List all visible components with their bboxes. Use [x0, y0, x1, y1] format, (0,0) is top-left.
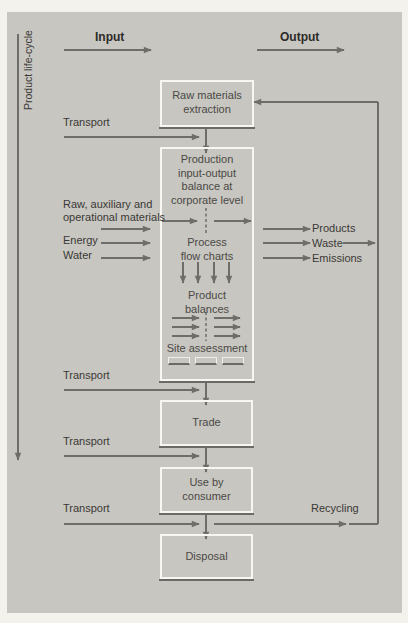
output-header: Output	[280, 31, 319, 44]
use-by-consumer-label: Use by consumer	[160, 476, 253, 503]
trade-label: Trade	[160, 416, 253, 430]
trade-box-shadow	[159, 446, 254, 448]
disposal-label: Disposal	[160, 550, 253, 564]
recycling-label: Recycling	[311, 502, 359, 515]
raw-materials-box-shadow	[159, 127, 255, 129]
disposal-box-shadow	[159, 579, 254, 581]
transport-label-3: Transport	[63, 435, 110, 448]
transport-label-1: Transport	[63, 116, 110, 129]
site-assessment-cell	[222, 357, 244, 365]
emissions-label: Emissions	[312, 252, 362, 265]
use-box-shadow	[159, 513, 254, 515]
raw-materials-label: Raw materials extraction	[160, 89, 254, 116]
waste-label: Waste	[312, 237, 343, 250]
transport-label-2: Transport	[63, 369, 110, 382]
energy-label: Energy	[63, 234, 98, 247]
process-flow-charts-label: Process flow charts	[160, 236, 254, 263]
site-assessment-cell	[195, 357, 217, 365]
production-title: Production input-output balance at corpo…	[160, 153, 254, 207]
products-label: Products	[312, 222, 355, 235]
product-life-cycle-label: Product life-cycle	[22, 30, 34, 110]
transport-label-4: Transport	[63, 502, 110, 515]
site-assessment-label: Site assessment	[160, 342, 254, 356]
input-header: Input	[95, 31, 124, 44]
product-balances-label: Product balances	[160, 289, 254, 316]
water-label: Water	[63, 249, 92, 262]
site-assessment-cell	[168, 357, 190, 365]
production-box-shadow	[159, 381, 255, 383]
materials-label: Raw, auxiliary and operational materials	[63, 198, 165, 224]
